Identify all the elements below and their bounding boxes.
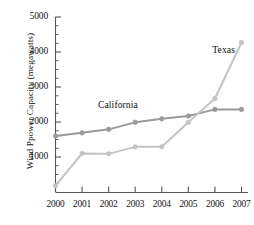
data-point-texas (159, 145, 164, 150)
x-axis-tick-label: 2000 (41, 199, 71, 209)
x-axis-tick-label: 2001 (67, 199, 97, 209)
data-point-texas (239, 40, 244, 45)
x-axis-tick-label: 2003 (120, 199, 150, 209)
x-axis-tick-label: 2007 (227, 199, 254, 209)
data-point-texas (53, 183, 58, 188)
y-axis-tick-label: 5000 (14, 11, 48, 21)
x-axis-tick-label: 2002 (94, 199, 124, 209)
wind-power-capacity-line-chart: Wind Ppower Capacity (megawatts) 5000400… (0, 0, 253, 225)
data-point-california (106, 127, 111, 132)
data-point-california (133, 120, 138, 125)
data-point-texas (80, 151, 85, 156)
series-label-texas: Texas (212, 44, 235, 55)
y-axis-ticks (56, 17, 62, 183)
data-point-california (213, 107, 218, 112)
x-axis-tick-label: 2005 (173, 199, 203, 209)
data-point-texas (213, 96, 218, 101)
data-point-texas (186, 120, 191, 125)
y-axis-tick-label: 2000 (14, 116, 48, 126)
y-axis-tick-label: 1000 (14, 151, 48, 161)
y-axis-tick-label: 3000 (14, 81, 48, 91)
chart-series-group (53, 40, 244, 188)
chart-plot-area (0, 0, 253, 225)
x-axis-tick-label: 2004 (147, 199, 177, 209)
series-line-texas (56, 43, 242, 186)
data-point-texas (133, 145, 138, 150)
x-axis-ticks (56, 187, 242, 193)
y-axis-tick-label: 4000 (14, 46, 48, 56)
data-point-california (186, 114, 191, 119)
x-axis-tick-label: 2006 (200, 199, 230, 209)
data-point-california (53, 134, 58, 139)
data-point-california (159, 117, 164, 122)
data-point-texas (106, 152, 111, 157)
series-label-california: California (98, 99, 138, 110)
data-point-california (80, 131, 85, 136)
data-point-california (239, 107, 244, 112)
